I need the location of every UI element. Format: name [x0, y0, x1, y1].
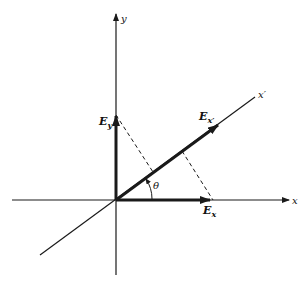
projection-line-ex	[182, 151, 213, 200]
theta-arc	[146, 179, 152, 199]
x-axis-label: x	[292, 195, 298, 206]
ey-label: Ey	[98, 115, 113, 130]
x-prime-axis-label: x′	[258, 89, 267, 100]
vector-ex-prime	[116, 125, 218, 200]
theta-label: θ	[153, 180, 159, 191]
ex-prime-label: Ex′	[198, 110, 215, 125]
projection-line-ey	[116, 115, 153, 172]
y-axis-label: y	[120, 13, 127, 24]
ex-label: Ex	[202, 204, 216, 219]
field-projection-diagram: y x x′ Ey Ex Ex′ θ	[0, 0, 307, 284]
